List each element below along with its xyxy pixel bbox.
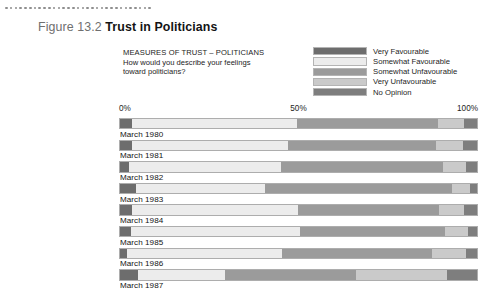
decorative-dot	[19, 7, 22, 10]
legend-item-label: Very Unfavourable	[373, 77, 436, 86]
decorative-dot	[48, 7, 51, 10]
stacked-bar	[119, 118, 478, 129]
decorative-dot	[86, 7, 89, 10]
decorative-dot	[110, 7, 113, 10]
legend-color-swatch	[313, 88, 367, 96]
stacked-bar	[119, 226, 478, 237]
legend-item-label: No Opinion	[373, 88, 411, 97]
legend-item: Somewhat Unfavourable	[313, 67, 457, 76]
decorative-dotted-rule	[5, 6, 153, 10]
bar-segment	[470, 184, 477, 193]
decorative-dot	[77, 7, 80, 10]
bar-segment	[120, 184, 136, 193]
bar-segment	[464, 119, 476, 128]
bar-segment	[445, 227, 468, 236]
bar-segment	[464, 205, 476, 214]
chart-plot-area: March 1980March 1981March 1982March 1983…	[119, 118, 478, 291]
bar-segment	[120, 119, 132, 128]
legend-item: Somewhat Favourable	[313, 57, 457, 66]
decorative-dot	[38, 7, 41, 10]
bar-segment	[288, 141, 436, 150]
stacked-bar	[119, 204, 478, 215]
page-title: Figure 13.2 Trust in Politicians	[38, 20, 218, 34]
decorative-dot	[24, 7, 27, 10]
bar-segment	[466, 249, 477, 258]
decorative-dot	[67, 7, 70, 10]
bar-segment	[131, 227, 301, 236]
bar-category-label: March 1987	[120, 281, 163, 290]
bar-segment	[138, 270, 225, 279]
survey-question-line-1: How would you describe your feelings	[123, 58, 308, 68]
decorative-dot	[34, 7, 37, 10]
bar-category-label: March 1982	[120, 173, 163, 182]
legend-item: No Opinion	[313, 88, 457, 97]
chart-bar-group: March 1982	[119, 161, 478, 183]
decorative-dot	[125, 7, 128, 10]
bar-segment	[120, 227, 131, 236]
decorative-dot	[53, 7, 56, 10]
decorative-dot	[129, 7, 132, 10]
axis-tick-label: 100%	[457, 104, 478, 113]
bar-category-label: March 1986	[120, 259, 163, 268]
bar-category-label: March 1980	[120, 130, 163, 139]
bar-segment	[466, 162, 477, 171]
bar-segment	[452, 184, 470, 193]
decorative-dot	[58, 7, 61, 10]
bar-segment	[436, 141, 463, 150]
bar-segment	[120, 249, 127, 258]
decorative-dot	[120, 7, 123, 10]
decorative-dot	[15, 7, 18, 10]
stacked-bar	[119, 161, 478, 172]
legend-item-label: Somewhat Unfavourable	[373, 67, 457, 76]
chart-bar-group: March 1981	[119, 140, 478, 162]
chart-bar-group: March 1983	[119, 183, 478, 205]
bar-segment	[447, 270, 477, 279]
axis-tick-label: 50%	[290, 104, 306, 113]
decorative-dot	[5, 7, 8, 10]
bar-segment	[463, 141, 477, 150]
stacked-bar	[119, 183, 478, 194]
bar-segment	[120, 205, 132, 214]
decorative-dot	[144, 7, 147, 10]
bar-category-label: March 1984	[120, 216, 163, 225]
figure-page: Figure 13.2 Trust in Politicians MEASURE…	[0, 0, 485, 291]
bar-segment	[132, 205, 298, 214]
decorative-dot	[105, 7, 108, 10]
stacked-bar	[119, 140, 478, 151]
bar-segment	[300, 227, 445, 236]
chart-bar-group: March 1984	[119, 204, 478, 226]
decorative-dot	[96, 7, 99, 10]
legend-color-swatch	[313, 57, 367, 65]
legend-item-label: Somewhat Favourable	[373, 57, 450, 66]
stacked-bar	[119, 269, 478, 280]
decorative-dot	[139, 7, 142, 10]
legend-color-swatch	[313, 47, 367, 55]
stacked-bar	[119, 248, 478, 259]
bar-segment	[438, 119, 465, 128]
decorative-dot	[91, 7, 94, 10]
bar-category-label: March 1983	[120, 195, 163, 204]
axis-tick-label: 0%	[119, 104, 131, 113]
survey-question-line-2: toward politicians?	[123, 67, 308, 77]
figure-number: Figure 13.2	[38, 20, 102, 34]
bar-segment	[265, 184, 452, 193]
decorative-dot	[62, 7, 65, 10]
bar-segment	[432, 249, 466, 258]
bar-segment	[136, 184, 265, 193]
bar-segment	[298, 205, 439, 214]
bar-segment	[281, 162, 443, 171]
decorative-dot	[134, 7, 137, 10]
bar-segment	[120, 162, 129, 171]
bar-segment	[129, 162, 281, 171]
bar-segment	[120, 270, 138, 279]
bar-segment	[132, 141, 287, 150]
figure-title: Trust in Politicians	[105, 20, 217, 34]
legend-color-swatch	[313, 68, 367, 76]
decorative-dot	[148, 7, 151, 10]
legend-color-swatch	[313, 78, 367, 86]
decorative-dot	[82, 7, 85, 10]
bar-segment	[356, 270, 447, 279]
bar-segment	[225, 270, 355, 279]
bar-segment	[443, 162, 466, 171]
bar-segment	[297, 119, 438, 128]
